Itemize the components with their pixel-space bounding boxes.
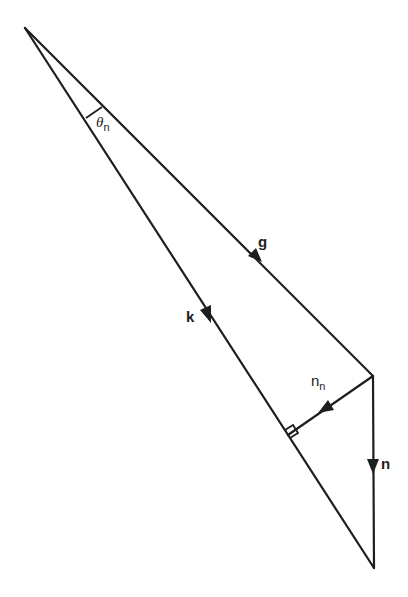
vector-k-line: [25, 28, 374, 568]
arrow-nn-icon: [318, 400, 334, 413]
arrow-k-icon: [200, 305, 211, 323]
label-g: g: [258, 233, 267, 250]
arrow-g-icon: [248, 248, 262, 262]
label-theta-n: θn: [96, 113, 110, 131]
label-n: n: [381, 455, 390, 472]
label-n-n-subscript: n: [319, 380, 325, 392]
arrow-n-icon: [367, 459, 379, 474]
label-k: k: [186, 308, 194, 325]
vector-g-line: [25, 28, 373, 376]
label-n-n: nn: [311, 372, 325, 389]
label-theta-subscript: n: [103, 121, 109, 133]
vector-diagram: [0, 0, 408, 597]
